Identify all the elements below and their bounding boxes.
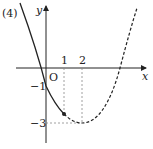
origin-label: O: [49, 71, 58, 84]
curve-dashed: [64, 8, 137, 123]
curve-solid: [20, 3, 64, 114]
x-tick-2: 2: [79, 54, 86, 67]
y-axis-label: y: [35, 4, 43, 17]
x-axis-label: x: [142, 70, 149, 83]
x-tick-1: 1: [61, 54, 68, 67]
graph-figure: (4) y x O 1 2 −1 −3: [0, 0, 153, 149]
problem-label: (4): [2, 7, 18, 20]
y-tick-minus1: −1: [30, 80, 46, 93]
y-tick-minus3: −3: [30, 117, 46, 130]
marked-point: [62, 112, 66, 116]
